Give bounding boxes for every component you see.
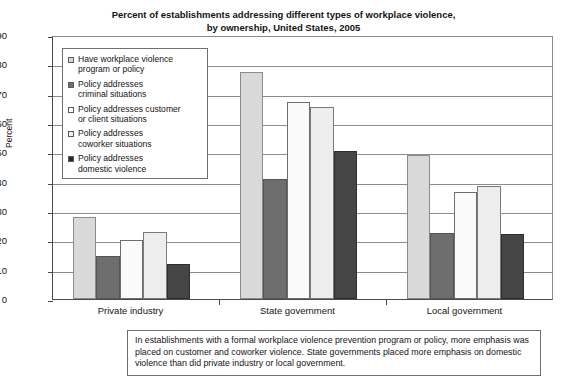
legend-item-2: Policy addresses customeror client situa… bbox=[68, 104, 203, 125]
y-tick-label-0: 0 bbox=[0, 295, 7, 305]
bar-state-government-series-1 bbox=[263, 179, 287, 299]
bar-state-government-series-4 bbox=[334, 151, 358, 299]
bar-private-industry-series-2 bbox=[120, 240, 144, 299]
x-tick-1 bbox=[219, 300, 220, 305]
legend-item-4: Policy addressesdomestic violence bbox=[68, 153, 203, 174]
y-tick-80 bbox=[48, 66, 53, 67]
bar-state-government-series-3 bbox=[310, 107, 334, 299]
y-tick-label-40: 40 bbox=[0, 178, 7, 188]
legend-label-0: Have workplace violenceprogram or policy bbox=[78, 54, 173, 75]
x-tick-2 bbox=[386, 300, 387, 305]
y-tick-label-10: 10 bbox=[0, 266, 7, 276]
bar-local-government-series-3 bbox=[477, 186, 501, 299]
chart-title-line-1: Percent of establishments addressing dif… bbox=[0, 8, 567, 21]
bar-state-government-series-0 bbox=[240, 72, 264, 299]
y-tick-label-20: 20 bbox=[0, 236, 7, 246]
x-axis-group-label-0: Private industry bbox=[71, 305, 191, 316]
bar-private-industry-series-4 bbox=[167, 264, 191, 299]
y-tick-label-60: 60 bbox=[0, 119, 7, 129]
y-tick-30 bbox=[48, 213, 53, 214]
y-tick-70 bbox=[48, 96, 53, 97]
legend-label-4: Policy addressesdomestic violence bbox=[78, 153, 146, 174]
chart-title: Percent of establishments addressing dif… bbox=[0, 8, 567, 34]
x-axis-group-label-1: State government bbox=[238, 305, 358, 316]
bar-private-industry-series-0 bbox=[73, 217, 97, 299]
y-tick-90 bbox=[48, 37, 53, 38]
bar-state-government-series-2 bbox=[287, 102, 311, 299]
y-tick-10 bbox=[48, 272, 53, 273]
legend-label-2: Policy addresses customeror client situa… bbox=[78, 104, 181, 125]
legend-swatch-icon-1 bbox=[68, 82, 74, 88]
bar-local-government-series-2 bbox=[454, 192, 478, 299]
footnote-box: In establishments with a formal workplac… bbox=[127, 330, 541, 376]
chart-legend: Have workplace violenceprogram or policy… bbox=[62, 48, 208, 179]
y-tick-60 bbox=[48, 125, 53, 126]
y-tick-label-50: 50 bbox=[0, 148, 7, 158]
legend-label-1: Policy addressescriminal situations bbox=[78, 79, 146, 100]
bar-local-government-series-0 bbox=[407, 155, 431, 299]
bar-private-industry-series-3 bbox=[143, 232, 167, 299]
x-axis-group-label-2: Local government bbox=[405, 305, 525, 316]
bar-local-government-series-1 bbox=[430, 233, 454, 299]
y-tick-0 bbox=[48, 301, 53, 302]
chart-title-line-2: by ownership, United States, 2005 bbox=[0, 21, 567, 34]
y-tick-40 bbox=[48, 184, 53, 185]
legend-item-1: Policy addressescriminal situations bbox=[68, 79, 203, 100]
legend-swatch-icon-0 bbox=[68, 57, 74, 63]
y-tick-label-90: 90 bbox=[0, 31, 7, 41]
bar-local-government-series-4 bbox=[501, 234, 525, 299]
legend-item-0: Have workplace violenceprogram or policy bbox=[68, 54, 203, 75]
bar-private-industry-series-1 bbox=[96, 256, 120, 299]
legend-swatch-icon-2 bbox=[68, 107, 74, 113]
legend-item-3: Policy addressescoworker situations bbox=[68, 128, 203, 149]
y-tick-20 bbox=[48, 242, 53, 243]
footnote-line-1: In establishments with a formal workplac… bbox=[135, 335, 471, 345]
legend-swatch-icon-4 bbox=[68, 156, 74, 162]
y-tick-label-80: 80 bbox=[0, 60, 7, 70]
legend-label-3: Policy addressescoworker situations bbox=[78, 128, 152, 149]
y-tick-label-70: 70 bbox=[0, 90, 7, 100]
y-tick-50 bbox=[48, 154, 53, 155]
legend-swatch-icon-3 bbox=[68, 131, 74, 137]
y-tick-label-30: 30 bbox=[0, 207, 7, 217]
